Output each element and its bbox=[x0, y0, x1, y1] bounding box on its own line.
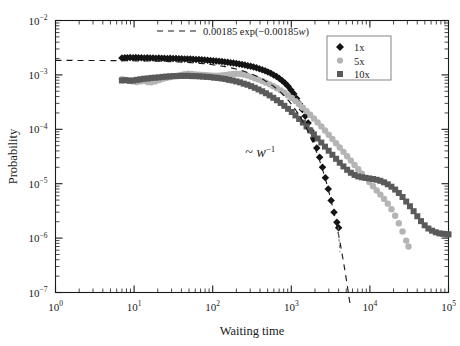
legend-marker-10x bbox=[337, 71, 343, 77]
x-tick-label: 102 bbox=[205, 299, 220, 313]
figure-container: 10010110210310410510−710−610−510−410−310… bbox=[0, 0, 460, 346]
x-axis-title: Waiting time bbox=[220, 324, 285, 338]
data-point bbox=[392, 213, 398, 219]
y-tick-label: 10−3 bbox=[29, 67, 48, 81]
exponential-fit-line bbox=[56, 60, 351, 304]
y-tick-label: 10−7 bbox=[29, 285, 48, 299]
y-tick-label: 10−6 bbox=[29, 231, 48, 245]
legend-marker-5x bbox=[337, 57, 343, 63]
y-tick-label: 10−2 bbox=[29, 13, 48, 27]
scatter-plot: 10010110210310410510−710−610−510−410−310… bbox=[0, 0, 460, 346]
x-tick-label: 101 bbox=[127, 299, 142, 313]
y-axis-title: Probability bbox=[6, 128, 20, 184]
legend-label-1x: 1x bbox=[354, 42, 365, 53]
series-10x bbox=[119, 73, 452, 238]
x-tick-label: 105 bbox=[441, 299, 456, 313]
fit-equation-label: 0.00185 exp(−0.00185w) bbox=[203, 26, 309, 38]
data-point bbox=[405, 243, 411, 249]
y-tick-label: 10−4 bbox=[29, 122, 48, 136]
x-tick-label: 104 bbox=[363, 299, 378, 313]
x-tick-label: 100 bbox=[48, 299, 63, 313]
data-point bbox=[399, 228, 405, 234]
power-law-annotation: ~ w−1 bbox=[245, 144, 275, 160]
fit-equation-legend: 0.00185 exp(−0.00185w) bbox=[157, 26, 309, 38]
series-5x bbox=[119, 71, 412, 250]
data-point bbox=[385, 200, 391, 206]
data-point bbox=[403, 237, 409, 243]
data-point bbox=[388, 206, 394, 212]
data-point bbox=[396, 220, 402, 226]
y-tick-label: 10−5 bbox=[29, 176, 48, 190]
legend-label-10x: 10x bbox=[354, 69, 371, 80]
data-point bbox=[446, 231, 452, 237]
series-legend: 1x5x10x bbox=[327, 36, 391, 80]
x-tick-label: 103 bbox=[284, 299, 299, 313]
legend-label-5x: 5x bbox=[354, 56, 365, 67]
